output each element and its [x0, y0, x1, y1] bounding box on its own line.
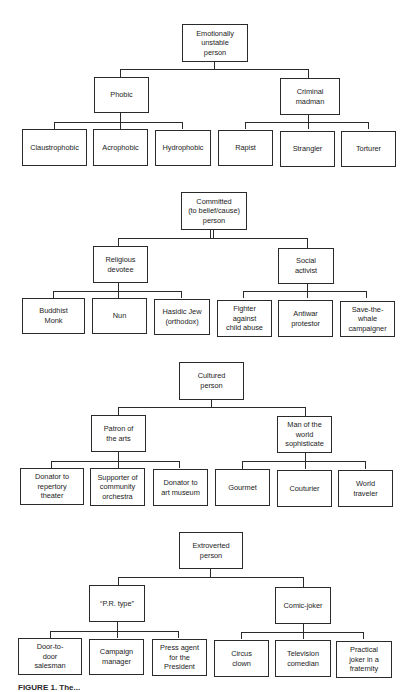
figure-caption: FIGURE 1. The... — [18, 683, 80, 692]
connector — [303, 632, 304, 639]
connector — [51, 461, 52, 468]
connector — [118, 283, 119, 291]
branch-node: Social activist — [278, 248, 334, 284]
connector — [118, 407, 306, 408]
connector — [50, 631, 51, 638]
leaf-node: Supporter of community orchestra — [90, 468, 145, 506]
connector — [118, 238, 308, 239]
root-node: Cultured person — [179, 362, 244, 400]
connector — [242, 461, 366, 462]
connector — [120, 122, 121, 129]
leaf-node: Door-to- door salesman — [18, 638, 82, 675]
connector — [245, 122, 246, 129]
connector — [243, 291, 367, 292]
connector — [118, 452, 119, 461]
connector — [117, 631, 118, 638]
connector — [178, 631, 179, 638]
connector — [363, 632, 364, 639]
connector — [305, 407, 306, 416]
connector — [245, 122, 369, 123]
branch-node: Phobic — [94, 77, 149, 113]
leaf-node: Nun — [92, 298, 147, 334]
branch-node: “P.R. type” — [89, 585, 145, 622]
leaf-node: Acrophobic — [93, 129, 148, 166]
branch-node: Man of the world sophisticate — [277, 416, 332, 453]
root-node: Committed (to belief/cause) person — [181, 192, 247, 230]
connector — [303, 577, 304, 587]
connector — [120, 69, 121, 77]
connector — [51, 461, 180, 462]
connector — [243, 291, 244, 298]
leaf-node: Antiwar protestor — [278, 300, 333, 337]
connector — [118, 577, 119, 585]
leaf-node: Circus clown — [214, 640, 269, 677]
leaf-node: Buddhist Monk — [22, 298, 85, 334]
leaf-node: Torturer — [341, 131, 396, 167]
connector — [242, 461, 243, 469]
connector — [118, 291, 119, 298]
connector — [307, 238, 308, 248]
branch-node: Criminal madman — [280, 78, 340, 115]
connector — [118, 407, 119, 415]
connector — [118, 461, 119, 468]
leaf-node: Hasidic Jew (orthodox) — [154, 299, 210, 335]
leaf-node: Donator to art museum — [153, 469, 208, 506]
connector — [366, 291, 367, 298]
leaf-node: Campaign manager — [89, 639, 144, 675]
connector — [50, 631, 179, 632]
connector — [308, 122, 309, 129]
leaf-node: Television comedian — [275, 640, 331, 677]
branch-node: Patron of the arts — [91, 415, 146, 452]
connector — [53, 291, 54, 298]
connector — [307, 291, 308, 298]
connector — [305, 461, 306, 469]
connector — [241, 632, 242, 639]
leaf-node: Practical joker in a fraternity — [336, 641, 392, 678]
connector — [368, 122, 369, 129]
branch-node: Comic-joker — [275, 587, 331, 624]
connector — [181, 291, 182, 298]
connector — [120, 69, 309, 70]
leaf-node: Gourmet — [215, 469, 270, 506]
connector — [54, 122, 183, 123]
leaf-node: Press agent for the President — [152, 639, 207, 676]
connector — [118, 238, 119, 246]
connector — [120, 113, 121, 122]
leaf-node: Save-the- whale campaigner — [340, 301, 395, 337]
leaf-node: Hydrophobic — [155, 130, 211, 166]
connector — [182, 122, 183, 129]
leaf-node: Donator to repertory theater — [20, 468, 84, 505]
connector — [118, 577, 304, 578]
leaf-node: Couturier — [277, 470, 332, 507]
connector — [54, 122, 55, 129]
connector — [365, 461, 366, 469]
leaf-node: Fighter against child abuse — [217, 300, 272, 337]
root-node: Extroverted person — [179, 532, 243, 569]
connector — [308, 69, 309, 78]
branch-node: Religious devotee — [93, 246, 148, 283]
leaf-node: Rapist — [218, 130, 273, 166]
root-node: Emotionally unstable person — [182, 24, 248, 62]
leaf-node: World traveler — [338, 470, 393, 507]
leaf-node: Strangler — [280, 131, 335, 167]
connector — [179, 461, 180, 468]
leaf-node: Claustrophobic — [22, 129, 87, 166]
